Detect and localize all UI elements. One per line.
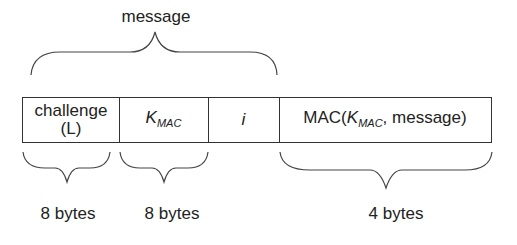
size-label-challenge: 8 bytes <box>30 204 106 224</box>
message-label: message <box>116 7 196 27</box>
field-kmac: KMAC <box>119 97 209 143</box>
mac-suffix: , message) <box>383 108 467 127</box>
field-i: i <box>208 97 280 143</box>
challenge-line1: challenge <box>35 102 108 120</box>
mac-brace <box>280 152 492 188</box>
challenge-brace <box>23 152 110 182</box>
kmac-sub: MAC <box>157 117 181 129</box>
kmac-main: K <box>146 108 157 127</box>
message-brace <box>31 32 277 75</box>
challenge-line2: (L) <box>61 120 82 138</box>
field-challenge: challenge (L) <box>22 97 120 143</box>
mac-sub: MAC <box>358 117 382 129</box>
field-mac: MAC(KMAC, message) <box>279 97 492 143</box>
kmac-brace <box>120 152 208 182</box>
size-label-kmac: 8 bytes <box>134 204 210 224</box>
mac-prefix: MAC( <box>303 108 346 127</box>
i-label: i <box>242 111 246 129</box>
mac-k: K <box>347 108 358 127</box>
size-label-mac: 4 bytes <box>358 204 434 224</box>
